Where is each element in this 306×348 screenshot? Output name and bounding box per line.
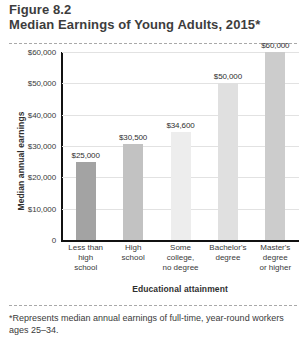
x-tick-label: Somecollege,no degree — [157, 243, 204, 273]
top-divider — [9, 43, 297, 44]
bar-cell: $25,000 — [62, 52, 109, 240]
figure-footnote: *Represents median annual earnings of fu… — [9, 312, 299, 336]
x-tick-label: Bachelor'sdegree — [204, 243, 251, 273]
figure-number: Figure 8.2 — [9, 2, 71, 17]
y-axis-tick-labels: 0$10,000$20,000$30,000$40,000$50,000$60,… — [12, 52, 56, 241]
bar-value-label: $30,500 — [119, 133, 147, 142]
x-tick-label: Master'sdegreeor higher — [252, 243, 299, 273]
x-tick-label: Less thanhighschool — [62, 243, 109, 273]
bar-value-label: $25,000 — [72, 151, 100, 160]
bar-value-label: $34,600 — [166, 121, 194, 130]
y-tick-label: $30,000 — [12, 142, 56, 151]
bar[interactable]: $34,600 — [171, 132, 191, 240]
bar-cell: $34,600 — [157, 52, 204, 240]
bar[interactable]: $50,000 — [218, 83, 238, 240]
bar-chart: Median annual earnings 0$10,000$20,000$3… — [0, 52, 306, 297]
figure-container: Figure 8.2 Median Earnings of Young Adul… — [0, 0, 306, 348]
bar-cell: $30,500 — [109, 52, 156, 240]
plot-area: $25,000$30,500$34,600$50,000$60,000 — [61, 52, 299, 241]
y-tick-label: 0 — [12, 236, 56, 245]
bottom-divider — [9, 305, 297, 306]
bar-series: $25,000$30,500$34,600$50,000$60,000 — [62, 52, 299, 240]
x-axis-tick-labels: Less thanhighschoolHighschoolSomecollege… — [62, 243, 299, 273]
bar[interactable]: $30,500 — [123, 144, 143, 240]
y-tick-label: $10,000 — [12, 204, 56, 213]
bar-value-label: $50,000 — [214, 72, 242, 81]
y-tick-label: $60,000 — [12, 48, 56, 57]
bar-cell: $50,000 — [204, 52, 251, 240]
bar-value-label: $60,000 — [261, 41, 289, 50]
x-axis-line — [61, 240, 299, 242]
bar[interactable]: $60,000 — [265, 52, 285, 240]
bar[interactable]: $25,000 — [76, 162, 96, 240]
x-axis-title: Educational attainment — [61, 284, 299, 294]
y-tick-label: $50,000 — [12, 79, 56, 88]
y-tick-label: $40,000 — [12, 110, 56, 119]
figure-title: Median Earnings of Young Adults, 2015* — [9, 17, 260, 32]
bar-cell: $60,000 — [252, 52, 299, 240]
y-tick-label: $20,000 — [12, 173, 56, 182]
x-tick-label: Highschool — [109, 243, 156, 273]
